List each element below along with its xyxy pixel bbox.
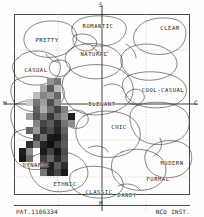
data-cell: [47, 85, 54, 92]
data-cell: [40, 141, 47, 148]
data-cell: [40, 148, 47, 155]
data-cell: [47, 148, 54, 155]
data-cell: [68, 113, 75, 120]
data-cell: [61, 134, 68, 141]
data-cell: [47, 169, 54, 176]
data-cell: [54, 120, 61, 127]
region-label-natural: NATURAL: [80, 51, 107, 57]
region-label-ethnic: ETHNIC: [53, 181, 76, 187]
data-cell: [40, 113, 47, 120]
region-label-clear: CLEAR: [160, 25, 179, 31]
data-cell: [61, 113, 68, 120]
data-cell: [54, 162, 61, 169]
data-cell: [54, 169, 61, 176]
data-cell: [54, 92, 61, 99]
axis-label-bottom: H: [99, 199, 103, 206]
data-cell: [47, 141, 54, 148]
data-cell: [54, 113, 61, 120]
data-cell: [47, 134, 54, 141]
region-label-classic: CLASSIC: [85, 189, 112, 195]
region-label-romantic: ROMANTIC: [83, 23, 114, 29]
data-cell: [47, 92, 54, 99]
data-cell: [54, 99, 61, 106]
region-label-chic: CHIC: [111, 124, 126, 130]
data-cell: [40, 127, 47, 134]
data-cell: [54, 148, 61, 155]
diagram-canvas: [0, 0, 204, 217]
data-cell: [19, 148, 26, 155]
data-cell: [40, 134, 47, 141]
data-cell: [40, 92, 47, 99]
data-cell: [61, 148, 68, 155]
data-cell: [33, 127, 40, 134]
data-cell: [33, 113, 40, 120]
data-cell: [40, 106, 47, 113]
data-cell: [26, 99, 33, 106]
data-cell: [40, 85, 47, 92]
data-cell: [26, 113, 33, 120]
data-cell: [33, 134, 40, 141]
region-label-elegant: ELEGANT: [88, 101, 115, 107]
data-cell: [54, 106, 61, 113]
data-cell: [40, 155, 47, 162]
data-cell: [61, 141, 68, 148]
data-cell: [61, 169, 68, 176]
data-cell: [26, 155, 33, 162]
data-cell: [33, 120, 40, 127]
data-cell: [33, 92, 40, 99]
data-cell: [47, 120, 54, 127]
region-label-modern: MODERN: [160, 160, 183, 166]
data-cell: [33, 99, 40, 106]
data-cell: [47, 155, 54, 162]
region-label-casual: CASUAL: [24, 67, 47, 73]
data-cell: [61, 120, 68, 127]
institute-credit: NCD INST.: [156, 208, 190, 215]
region-label-pretty: PRETTY: [35, 37, 58, 43]
data-cell: [68, 120, 75, 127]
data-cell: [40, 169, 47, 176]
color-image-scale-diagram: S W C: [0, 0, 204, 217]
data-cell: [19, 155, 26, 162]
data-cell: [61, 106, 68, 113]
data-cell: [33, 106, 40, 113]
data-cell: [33, 141, 40, 148]
data-cell: [61, 155, 68, 162]
region-label-formal: FORMAL: [146, 176, 169, 182]
data-cell: [61, 127, 68, 134]
region-label-cool-casual: COOL-CASUAL: [142, 87, 184, 93]
data-cell: [26, 127, 33, 134]
data-cell: [54, 85, 61, 92]
data-cell: [54, 134, 61, 141]
data-cell: [54, 141, 61, 148]
region-label-dandy: DANDY: [117, 192, 136, 198]
patent-number: PAT.1106334: [16, 208, 58, 215]
data-cell: [40, 99, 47, 106]
data-cell: [47, 113, 54, 120]
data-cell: [47, 106, 54, 113]
data-cell: [40, 120, 47, 127]
data-cell: [26, 141, 33, 148]
data-cell: [47, 78, 54, 85]
data-cell: [26, 148, 33, 155]
data-cell: [54, 78, 61, 85]
data-cell: [54, 155, 61, 162]
data-cell: [47, 127, 54, 134]
data-cell: [61, 162, 68, 169]
region-label-dynamic: DYNAMIC: [22, 162, 49, 168]
data-cell: [54, 127, 61, 134]
data-cell: [47, 99, 54, 106]
